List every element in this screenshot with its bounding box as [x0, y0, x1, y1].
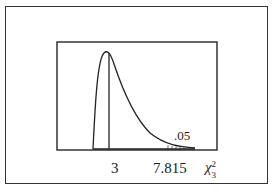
- mean-tick-label: 3: [111, 160, 119, 177]
- chi-symbol: χ: [205, 159, 212, 175]
- axis-superscript: 2: [212, 159, 217, 169]
- plot-box: [57, 42, 217, 150]
- chi-square-plot: [0, 0, 274, 192]
- axis-label: χ23: [205, 159, 218, 176]
- tail-area-label: .05: [174, 128, 190, 144]
- critical-value-label: 7.815: [153, 160, 187, 177]
- axis-subscript: 3: [212, 170, 217, 180]
